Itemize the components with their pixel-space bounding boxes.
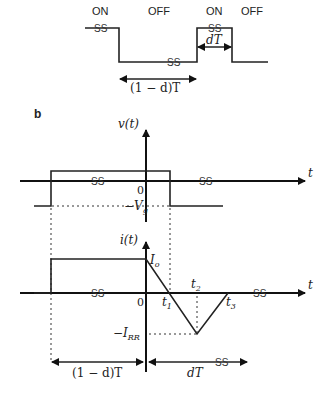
state-label-off-1: OFF [148, 5, 170, 17]
i-origin-label: 0 [137, 296, 144, 309]
interval-left-label: (1 − d)T [72, 366, 122, 380]
state-label-on-2: ON [206, 5, 223, 17]
interval-right-label: dT [187, 366, 204, 380]
v-time-axis-label: t [308, 166, 313, 180]
v-axis-label: v(t) [118, 117, 139, 131]
state-label-on-1: ON [92, 5, 109, 17]
current-plot: i(t) t 0 Io t1 t2 t3 −IRR SS SS [20, 233, 313, 372]
i-axis-label: i(t) [120, 233, 138, 247]
t1-label: t1 [162, 295, 172, 311]
voltage-plot: v(t) t 0 SS SS −Vg [20, 117, 313, 222]
v-origin-label: 0 [137, 184, 144, 197]
t2-label: t2 [191, 277, 201, 293]
panel-a-switch-waveform: ON OFF ON OFF SS SS SS (1 − d)T dT [85, 5, 268, 95]
break-mark: SS [199, 176, 213, 187]
waveform-diagram: ON OFF ON OFF SS SS SS (1 − d)T dT b v(t… [0, 0, 325, 401]
break-mark: SS [167, 57, 181, 68]
break-mark: SS [91, 176, 105, 187]
break-mark: SS [215, 357, 229, 368]
t3-label: t3 [226, 295, 236, 311]
current-waveform [34, 259, 228, 334]
interval-arrows: (1 − d)T dT SS [52, 357, 247, 380]
panel-b-label: b [34, 107, 41, 121]
interval-off-label: (1 − d)T [130, 81, 180, 95]
io-label: Io [149, 253, 160, 269]
i-time-axis-label: t [308, 278, 313, 292]
break-mark: SS [91, 288, 105, 299]
vg-level-label: −Vg [124, 199, 148, 215]
break-mark: SS [94, 23, 108, 34]
break-mark: SS [253, 288, 267, 299]
irr-label: −IRR [113, 326, 140, 342]
interval-on-label: dT [206, 33, 223, 47]
state-label-off-2: OFF [241, 5, 263, 17]
